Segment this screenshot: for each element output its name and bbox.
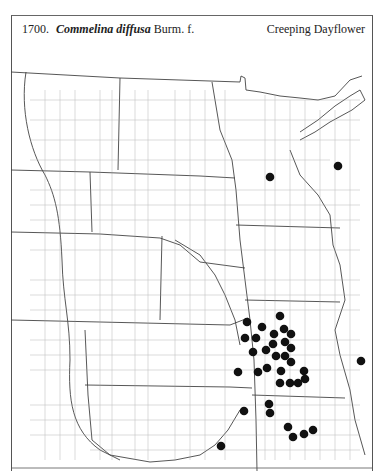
occurrence-dot xyxy=(269,340,278,349)
occurrence-dot xyxy=(217,442,226,451)
occurrence-dot xyxy=(254,368,263,377)
occurrence-dot xyxy=(300,430,309,439)
occurrence-dot xyxy=(258,323,267,332)
occurrence-dot xyxy=(243,318,252,327)
occurrence-dot xyxy=(280,325,289,334)
occurrence-dot xyxy=(265,400,274,409)
occurrence-dot xyxy=(241,334,250,343)
occurrence-dot xyxy=(277,367,286,376)
occurrence-dot xyxy=(287,358,296,367)
state-boundaries xyxy=(11,72,365,471)
distribution-map xyxy=(0,0,373,471)
occurrence-dot xyxy=(301,375,310,384)
occurrence-dot xyxy=(249,348,258,357)
occurrence-dot xyxy=(287,344,296,353)
occurrence-dot xyxy=(266,173,275,182)
occurrence-dot xyxy=(276,312,285,321)
occurrence-dot xyxy=(357,357,366,366)
occurrence-dot xyxy=(263,364,272,373)
occurrence-dot xyxy=(272,352,281,361)
occurrence-dot xyxy=(286,379,295,388)
occurrence-dot xyxy=(334,162,343,171)
occurrence-dot xyxy=(287,330,296,339)
county-grid xyxy=(30,90,360,460)
occurrence-dot xyxy=(270,330,279,339)
occurrence-dot xyxy=(309,426,318,435)
occurrence-dot xyxy=(234,368,243,377)
occurrence-dot xyxy=(240,407,249,416)
occurrence-dot xyxy=(284,423,293,432)
occurrence-dot xyxy=(289,433,298,442)
occurrence-dot xyxy=(262,346,271,355)
occurrence-dot xyxy=(300,367,309,376)
occurrence-dot xyxy=(276,379,285,388)
occurrence-dot xyxy=(266,409,275,418)
occurrence-dot xyxy=(252,334,261,343)
